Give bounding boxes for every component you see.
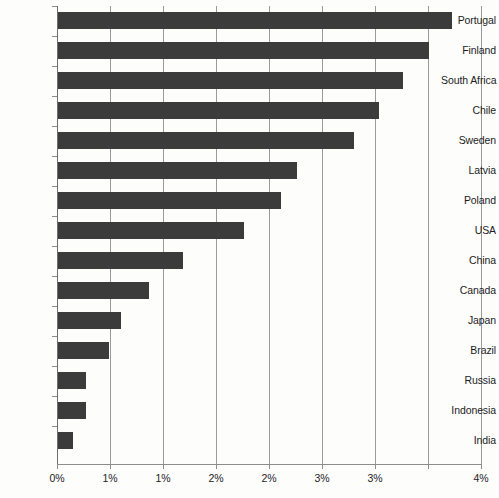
x-tick-label: 0% bbox=[39, 472, 75, 484]
y-tick-mark bbox=[52, 426, 57, 427]
y-tick-mark bbox=[52, 306, 57, 307]
y-tick-mark bbox=[52, 366, 57, 367]
category-label: Poland bbox=[441, 195, 496, 206]
bar bbox=[58, 372, 86, 389]
category-label: Brazil bbox=[441, 345, 496, 356]
y-tick-mark bbox=[52, 186, 57, 187]
y-tick-mark bbox=[52, 126, 57, 127]
bar bbox=[58, 252, 183, 269]
x-tick-label: 1% bbox=[145, 472, 181, 484]
x-tick-mark bbox=[216, 464, 217, 469]
x-tick-mark bbox=[269, 464, 270, 469]
category-label: China bbox=[441, 255, 496, 266]
x-tick-label: 2% bbox=[198, 472, 234, 484]
x-tick-mark bbox=[57, 464, 58, 469]
x-tick-mark bbox=[375, 464, 376, 469]
x-tick-mark bbox=[322, 464, 323, 469]
x-tick-mark bbox=[481, 464, 482, 469]
x-tick-label: 2% bbox=[251, 472, 287, 484]
x-tick-label: 3% bbox=[357, 472, 393, 484]
x-tick-label: 4% bbox=[463, 472, 499, 484]
bar bbox=[58, 162, 297, 179]
category-label: Sweden bbox=[441, 135, 496, 146]
bar bbox=[58, 402, 86, 419]
bar bbox=[58, 432, 73, 449]
category-label: Russia bbox=[441, 375, 496, 386]
bar bbox=[58, 342, 109, 359]
y-tick-mark bbox=[52, 66, 57, 67]
x-tick-mark bbox=[163, 464, 164, 469]
category-label: Latvia bbox=[441, 165, 496, 176]
category-label: Finland bbox=[441, 45, 496, 56]
x-tick-label: 1% bbox=[92, 472, 128, 484]
x-tick-mark bbox=[110, 464, 111, 469]
y-tick-mark bbox=[52, 396, 57, 397]
bar bbox=[58, 132, 354, 149]
bar bbox=[58, 102, 379, 119]
y-tick-mark bbox=[52, 276, 57, 277]
x-tick-mark bbox=[428, 464, 429, 469]
category-label: Chile bbox=[441, 105, 496, 116]
category-label: South Africa bbox=[441, 75, 496, 86]
y-tick-mark bbox=[52, 336, 57, 337]
x-tick-label: 3% bbox=[304, 472, 340, 484]
y-tick-mark bbox=[52, 6, 57, 7]
category-label: Canada bbox=[441, 285, 496, 296]
category-label: Indonesia bbox=[441, 405, 496, 416]
bar bbox=[58, 42, 429, 59]
y-tick-mark bbox=[52, 246, 57, 247]
bar bbox=[58, 222, 244, 239]
category-label: Japan bbox=[441, 315, 496, 326]
gridline bbox=[428, 6, 429, 464]
bar bbox=[58, 312, 121, 329]
category-label: India bbox=[441, 435, 496, 446]
y-tick-mark bbox=[52, 36, 57, 37]
bar bbox=[58, 12, 452, 29]
bar bbox=[58, 72, 403, 89]
bar bbox=[58, 282, 149, 299]
y-tick-mark bbox=[52, 216, 57, 217]
category-label: USA bbox=[441, 225, 496, 236]
y-tick-mark bbox=[52, 96, 57, 97]
y-tick-mark bbox=[52, 156, 57, 157]
bar bbox=[58, 192, 281, 209]
